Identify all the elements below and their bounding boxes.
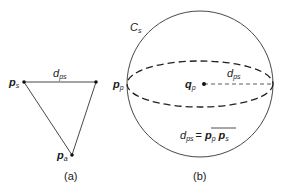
svg-text:dps=ppps: dps=ppps — [180, 129, 229, 143]
triangle — [24, 82, 96, 155]
point-pa-dot — [70, 153, 74, 157]
label-pp: pp — [112, 78, 124, 92]
distance-equation: dps=ppps — [180, 128, 236, 143]
caption-b: (b) — [193, 170, 206, 182]
equator-ellipse — [127, 61, 273, 107]
figure-canvas: ps dps pa (a) Cs pp qp dps dps=ppps (b) — [0, 0, 285, 191]
label-ps: ps — [8, 76, 20, 89]
label-dps-b: dps — [227, 67, 241, 81]
point-ps-dot — [22, 80, 26, 84]
center-dot — [202, 82, 206, 86]
label-cs: Cs — [130, 21, 142, 34]
label-qp: qp — [185, 78, 196, 92]
panel-b: Cs pp qp dps dps=ppps (b) — [112, 11, 273, 182]
caption-a: (a) — [64, 170, 77, 182]
label-dps-a: dps — [53, 67, 67, 81]
label-pa: pa — [56, 149, 68, 162]
point-right-dot — [94, 80, 98, 84]
panel-a: ps dps pa (a) — [8, 67, 98, 182]
